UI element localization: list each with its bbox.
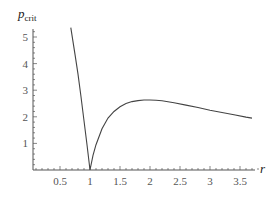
x-tick-label: 3.5 xyxy=(233,175,247,187)
x-tick-label: 1.5 xyxy=(113,175,127,187)
data-line xyxy=(71,28,252,170)
axes: 0.511.522.533.512345 xyxy=(23,29,259,187)
x-tick-label: 2 xyxy=(147,175,153,187)
x-tick-label: 3 xyxy=(207,175,213,187)
y-tick-label: 3 xyxy=(23,84,29,96)
y-axis-title: pcrit xyxy=(17,6,37,23)
x-tick-label: 2.5 xyxy=(173,175,187,187)
x-tick-label: 0.5 xyxy=(53,175,67,187)
chart: 0.511.522.533.512345 pcrit r xyxy=(0,0,276,197)
x-axis-title: r xyxy=(260,161,266,176)
y-tick-label: 5 xyxy=(23,31,29,43)
y-tick-label: 4 xyxy=(23,58,29,70)
x-tick-label: 1 xyxy=(87,175,93,187)
y-tick-label: 2 xyxy=(23,111,29,123)
y-tick-label: 1 xyxy=(23,137,29,149)
